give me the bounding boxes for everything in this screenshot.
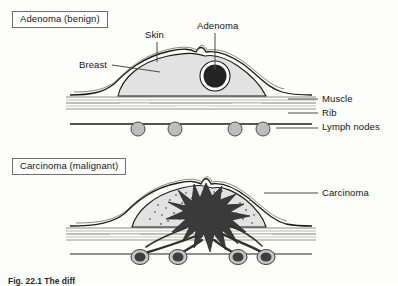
panel-title-adenoma: Adenoma (benign) [12,11,108,28]
panel-title-carcinoma: Carcinoma (malignant) [12,158,126,175]
label-lymph-nodes: Lymph nodes [322,122,380,132]
label-skin: Skin [145,30,164,40]
label-rib: Rib [322,108,337,118]
label-muscle: Muscle [322,94,353,104]
label-breast: Breast [79,60,107,70]
label-adenoma: Adenoma [197,21,238,31]
figure-caption: Fig. 22.1 The diff [8,276,75,286]
label-carcinoma: Carcinoma [322,188,369,198]
